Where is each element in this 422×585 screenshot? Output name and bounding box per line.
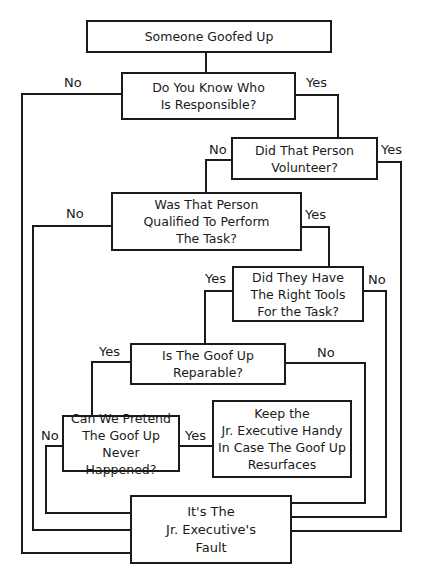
node-start: Someone Goofed Up: [86, 20, 332, 53]
node-keep-handy: Keep the Jr. Executive Handy In Case The…: [212, 400, 352, 478]
label-pretend-yes: Yes: [185, 429, 206, 443]
node-reparable: Is The Goof Up Reparable?: [130, 343, 286, 385]
node-pretend: Can We Pretend The Goof Up Never Happene…: [62, 415, 180, 472]
label-volunteer-no: No: [209, 143, 227, 157]
label-qualified-yes: Yes: [305, 208, 326, 222]
label-reparable-yes: Yes: [99, 345, 120, 359]
label-know-yes: Yes: [306, 76, 327, 90]
node-qualified: Was That Person Qualified To Perform The…: [111, 192, 302, 251]
node-know-who: Do You Know Who Is Responsible?: [121, 72, 296, 120]
label-know-no: No: [64, 76, 82, 90]
label-volunteer-yes: Yes: [381, 143, 402, 157]
node-fault: It's The Jr. Executive's Fault: [130, 495, 292, 564]
node-volunteer: Did That Person Volunteer?: [231, 137, 378, 180]
label-qualified-no: No: [66, 207, 84, 221]
label-reparable-no: No: [317, 346, 335, 360]
node-right-tools: Did They Have The Right Tools For the Ta…: [232, 266, 364, 322]
label-tools-no: No: [368, 273, 386, 287]
label-tools-yes: Yes: [205, 272, 226, 286]
label-pretend-no: No: [41, 429, 59, 443]
